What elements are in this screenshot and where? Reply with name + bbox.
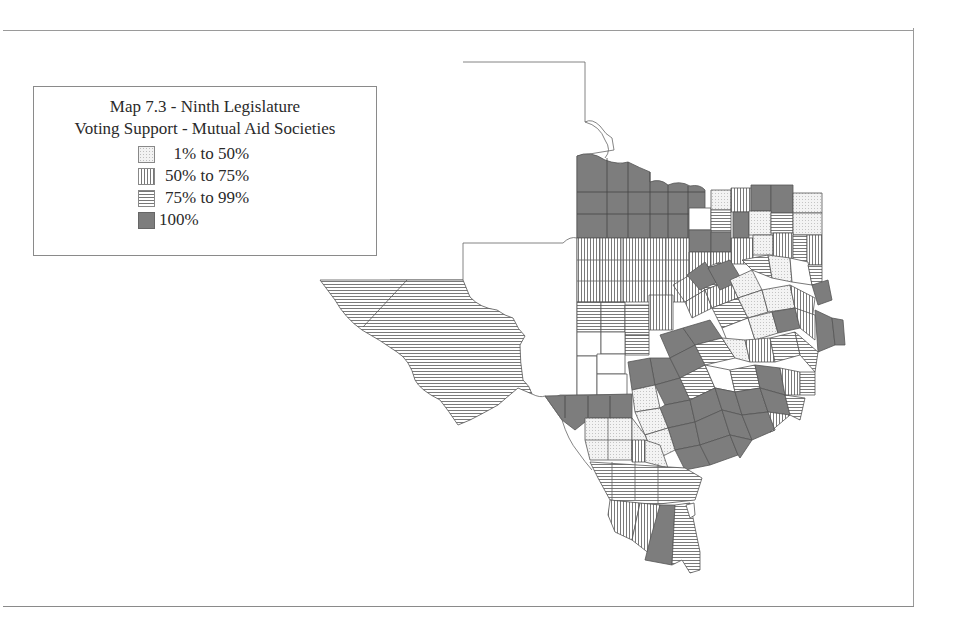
county [577,238,689,302]
county [768,255,792,282]
county [672,503,700,573]
county [815,310,835,352]
county [733,212,749,238]
legend-item-100: 100% [138,210,199,230]
legend-label: 50% to 75% [165,166,249,186]
county [770,332,800,362]
county [628,358,655,390]
county [793,213,822,235]
legend-item-1-50: 1% to 50% [138,144,249,164]
county [689,230,711,252]
horizontal-lines-swatch-icon [138,190,155,207]
solid-swatch-icon [138,212,155,229]
county [597,354,625,374]
county [590,462,702,505]
legend-item-50-75: 50% to 75% [138,166,249,186]
county [751,185,771,211]
county [812,280,832,305]
county [649,295,673,330]
county [749,211,771,235]
county [577,332,601,356]
county [577,356,597,395]
legend-subtitle: Voting Support - Mutual Aid Societies [34,119,376,139]
county [625,335,649,355]
county [762,285,795,312]
far-west-region [320,280,532,425]
county [711,190,731,210]
county [771,185,793,213]
county [689,208,711,230]
west-central-outline [545,238,577,398]
county [585,418,632,460]
county [771,213,793,233]
county [601,302,625,332]
legend-label: 100% [159,210,199,230]
county [800,372,815,395]
county [577,302,601,332]
county [625,305,649,335]
legend-label: 1% to 50% [165,144,249,164]
legend-item-75-99: 75% to 99% [138,188,249,208]
county [711,210,731,232]
county [753,235,773,255]
county [632,385,660,412]
county [632,440,645,462]
county [711,232,731,252]
map-legend: Map 7.3 - Ninth Legislature Voting Suppo… [33,86,377,256]
county [601,332,625,354]
county [731,188,751,212]
stipple-swatch-icon [138,146,155,163]
county [807,235,822,265]
north-panhandle-counties [577,154,705,238]
vertical-lines-swatch-icon [138,168,155,185]
legend-title: Map 7.3 - Ninth Legislature [34,97,376,117]
legend-label: 75% to 99% [165,188,249,208]
county [597,374,627,395]
county [793,193,822,213]
